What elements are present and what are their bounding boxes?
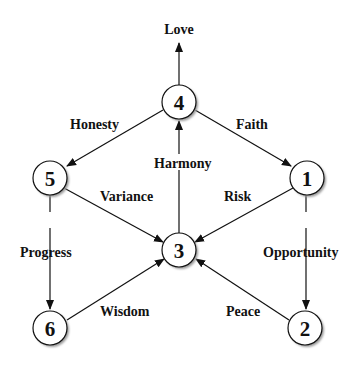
node-1: 1 [290, 161, 326, 197]
label-faith: Faith [236, 117, 268, 132]
node-label-2: 2 [300, 317, 311, 341]
label-wisdom: Wisdom [100, 304, 150, 319]
node-6: 6 [33, 311, 69, 347]
node-label-1: 1 [302, 167, 313, 191]
label-peace: Peace [226, 304, 260, 319]
label-opportunity: Opportunity [263, 245, 338, 260]
label-progress: Progress [20, 245, 72, 260]
node-5: 5 [33, 161, 69, 197]
label-harmony: Harmony [154, 156, 212, 171]
graph-diagram: 4 5 1 3 6 2 Love Honesty Faith Harmony V… [0, 0, 362, 372]
node-4: 4 [162, 85, 198, 121]
node-label-3: 3 [174, 239, 185, 263]
label-honesty: Honesty [70, 117, 119, 132]
label-love: Love [164, 22, 194, 37]
label-variance: Variance [100, 189, 153, 204]
label-risk: Risk [224, 189, 251, 204]
node-2: 2 [288, 311, 324, 347]
node-label-4: 4 [174, 91, 185, 115]
node-label-5: 5 [45, 167, 56, 191]
node-3: 3 [162, 233, 198, 269]
node-label-6: 6 [45, 317, 56, 341]
